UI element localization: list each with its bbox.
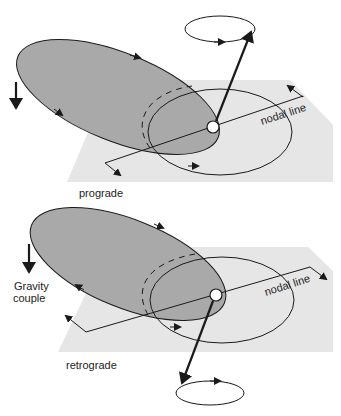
prograde-label: prograde — [79, 187, 123, 199]
orbital-precession-diagram: nodal line prograde nodal line Gravity c… — [0, 0, 341, 416]
central-body — [210, 289, 222, 301]
precession-circle — [176, 381, 244, 405]
retrograde-panel: nodal line Gravity couple retrograde — [13, 184, 333, 405]
prograde-panel: nodal line prograde — [1, 16, 333, 199]
retrograde-label: retrograde — [66, 359, 117, 371]
precession-circle — [185, 16, 255, 42]
central-body — [207, 121, 219, 133]
gravity-couple-label-line2: couple — [13, 292, 45, 304]
gravity-couple-label-line1: Gravity — [14, 280, 49, 292]
